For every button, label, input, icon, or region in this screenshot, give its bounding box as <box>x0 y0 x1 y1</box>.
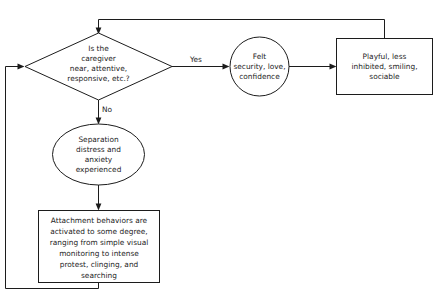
arrowhead-into-decision-left <box>18 64 25 70</box>
edge-distress-to-behaviors <box>96 185 102 211</box>
attachment-line-4: monitoring to intense <box>59 249 139 258</box>
node-separation-distress[interactable]: Separation distress and anxiety experien… <box>53 124 145 185</box>
attachment-line-1: Attachment behaviors are <box>51 216 148 225</box>
separation-line-2: distress and <box>76 145 121 154</box>
flowchart-canvas: Is the caregiver near, attentive, respon… <box>0 0 447 295</box>
node-attachment-behaviors[interactable]: Attachment behaviors are activated to so… <box>39 211 160 283</box>
node-felt-security[interactable]: Felt security, love, confidence <box>230 37 289 96</box>
attachment-line-6: searching <box>81 271 117 280</box>
decision-line-3: near, attentive, <box>70 64 127 73</box>
attachment-line-3: ranging from simple visual <box>50 238 149 247</box>
decision-line-1: Is the <box>88 44 109 53</box>
edge-playful-feedback <box>96 20 385 39</box>
attachment-line-5: protest, clinging, and <box>60 260 139 269</box>
edge-no <box>96 100 102 125</box>
felt-security-line-3: confidence <box>239 72 280 81</box>
decision-line-2: caregiver <box>81 54 117 63</box>
felt-security-line-1: Felt <box>253 52 266 61</box>
flowchart-svg: Is the caregiver near, attentive, respon… <box>0 0 447 295</box>
separation-line-3: anxiety <box>85 155 113 164</box>
edge-security-to-playful <box>289 64 337 70</box>
playful-line-1: Playful, less <box>363 52 407 61</box>
arrowhead-into-felt-security <box>223 64 230 70</box>
decision-line-4: responsive, etc.? <box>67 74 130 83</box>
edge-label-no: No <box>102 105 113 114</box>
node-playful-sociable[interactable]: Playful, less inhibited, smiling, sociab… <box>337 39 433 95</box>
separation-line-4: experienced <box>76 165 122 174</box>
node-decision-caregiver[interactable]: Is the caregiver near, attentive, respon… <box>25 33 172 100</box>
edge-label-yes: Yes <box>189 55 202 64</box>
attachment-line-2: activated to some degree, <box>50 227 147 236</box>
arrowhead-into-playful <box>330 64 337 70</box>
arrowhead-into-separation-distress <box>96 118 102 125</box>
playful-line-2: inhibited, smiling, <box>352 62 418 71</box>
arrowhead-into-attachment-behaviors <box>96 204 102 211</box>
edge-yes <box>172 64 230 70</box>
felt-security-line-2: security, love, <box>233 62 285 71</box>
playful-line-3: sociable <box>369 72 400 81</box>
separation-line-1: Separation <box>78 135 118 144</box>
